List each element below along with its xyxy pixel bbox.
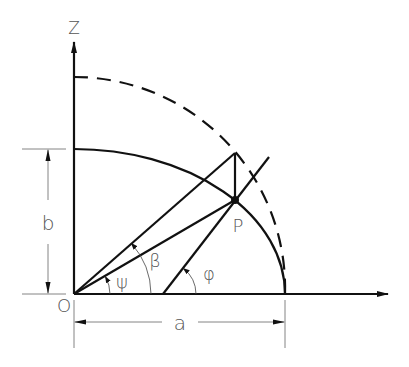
phi-angle-arc [184, 269, 197, 295]
auxiliary-circle [74, 77, 285, 294]
phi-label: φ [203, 263, 215, 284]
point-p-marker [231, 196, 239, 204]
psi-angle-arc [106, 277, 111, 294]
ellipse-diagram: Z O P a b ψ β φ [0, 0, 409, 367]
normal-line [163, 157, 269, 294]
beta-label: β [149, 250, 161, 271]
psi-label: ψ [116, 271, 128, 292]
point-p-label: P [233, 215, 244, 236]
semi-minor-label: b [42, 211, 55, 235]
origin-label: O [57, 295, 71, 316]
semi-major-label: a [174, 311, 186, 335]
z-axis-label: Z [68, 18, 80, 38]
